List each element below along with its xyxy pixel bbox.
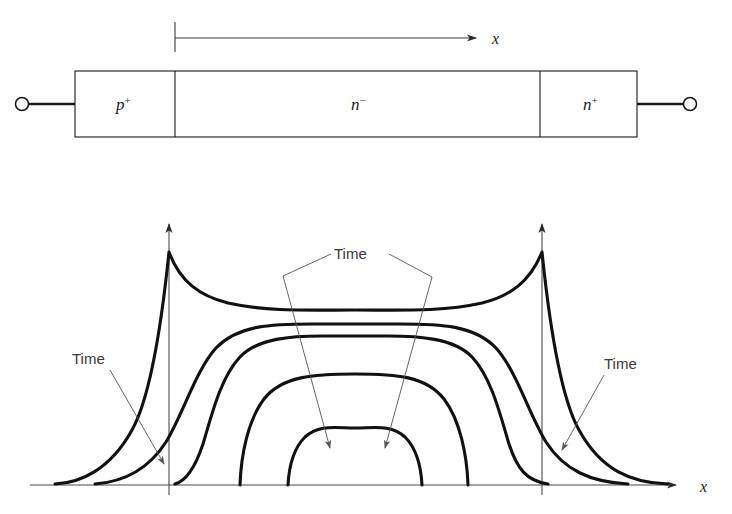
carrier-curve-5	[288, 427, 422, 485]
region-label-n-minus: n−	[351, 94, 366, 114]
time-leader-center-right	[385, 254, 432, 448]
device-x-axis-label: x	[491, 30, 499, 47]
time-label-left: Time	[72, 350, 105, 367]
semiconductor-carrier-distribution-figure: x p+ n− n+	[0, 0, 732, 514]
time-label-center: Time	[334, 245, 367, 262]
carrier-curve-2	[95, 324, 628, 484]
left-terminal	[16, 98, 76, 111]
carrier-curve-1	[55, 252, 668, 484]
time-leader-center-left	[283, 254, 331, 448]
device-x-axis	[175, 22, 476, 52]
carrier-distribution-plot: x Time Time	[30, 224, 707, 495]
region-label-n-minus-sup: −	[360, 94, 366, 106]
region-label-p-plus: p+	[115, 94, 131, 114]
time-label-right: Time	[604, 355, 637, 372]
time-annotation-right: Time	[562, 355, 637, 450]
right-terminal	[637, 98, 697, 111]
region-label-p-plus-sup: +	[125, 94, 131, 106]
figure-canvas: x p+ n− n+	[0, 0, 732, 514]
region-label-p-plus-base: p	[115, 95, 125, 114]
left-terminal-circle	[16, 98, 29, 111]
plot-x-axis-label: x	[699, 478, 707, 495]
region-label-n-plus-base: n	[583, 95, 592, 114]
region-label-n-minus-base: n	[351, 95, 360, 114]
right-terminal-circle	[684, 98, 697, 111]
time-annotation-center: Time	[283, 245, 432, 448]
carrier-curve-3	[175, 336, 548, 484]
region-label-n-plus: n+	[583, 94, 598, 114]
region-label-n-plus-sup: +	[592, 94, 598, 106]
device-diagram: x p+ n− n+	[16, 22, 697, 137]
time-annotation-left: Time	[72, 350, 164, 464]
